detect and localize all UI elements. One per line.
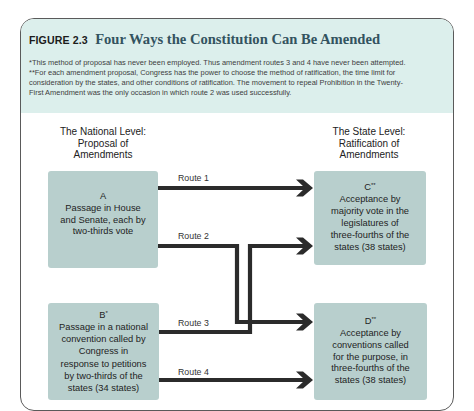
box-text-line: by two-thirds of the	[64, 370, 143, 382]
proposal-box-b: B* Passage in a national convention call…	[48, 303, 159, 400]
header-line: The National Level:	[38, 126, 168, 138]
ratification-box-d: D** Acceptance by conventions called for…	[314, 303, 427, 400]
state-level-header: The State Level: Ratification of Amendme…	[304, 126, 434, 161]
route-2-label: Route 2	[178, 231, 209, 241]
header-line: Proposal of	[38, 138, 168, 150]
route-2-line	[158, 246, 306, 322]
box-text-line: Acceptance by	[340, 194, 401, 206]
national-level-header: The National Level: Proposal of Amendmen…	[38, 126, 168, 161]
box-text-line: Passage in a national	[59, 321, 148, 333]
box-text-line: conventions called	[332, 340, 409, 352]
arrow-right-icon	[296, 314, 313, 331]
box-id: D**	[365, 316, 376, 328]
box-text-line: Acceptance by	[340, 328, 401, 340]
route-3-label: Route 3	[178, 318, 209, 328]
arrow-right-icon	[296, 238, 313, 255]
box-text-line: three-fourths of the	[331, 230, 410, 242]
box-text-line: states (34 states)	[68, 382, 139, 394]
box-text-line: response to petitions	[61, 358, 147, 370]
box-text-line: three-fourths of the	[331, 363, 410, 375]
arrow-right-icon	[296, 372, 313, 389]
box-text-line: states (38 states)	[334, 242, 405, 254]
box-text-line: Congress in	[79, 345, 129, 357]
box-text-line: for the purpose, in	[333, 352, 408, 364]
box-text-line: legislatures of	[341, 218, 398, 230]
header-line: Amendments	[304, 149, 434, 161]
route-4-label: Route 4	[178, 367, 209, 377]
box-id: A	[100, 191, 106, 203]
amendment-diagram: The National Level: Proposal of Amendmen…	[0, 0, 474, 411]
box-text-line: Passage in House	[65, 203, 140, 215]
ratification-box-c: C** Acceptance by majority vote in the l…	[314, 171, 426, 265]
box-text-line: and Senate, each by	[60, 215, 145, 227]
box-text-line: majority vote in the	[331, 206, 409, 218]
header-line: The State Level:	[304, 126, 434, 138]
box-text-line: two-thirds vote	[73, 226, 133, 238]
arrow-right-icon	[296, 180, 313, 197]
header-line: Ratification of	[304, 138, 434, 150]
box-id: B*	[99, 309, 108, 321]
proposal-box-a: A Passage in House and Senate, each by t…	[48, 171, 158, 268]
header-line: Amendments	[38, 149, 168, 161]
box-text-line: convention called by	[61, 333, 145, 345]
box-id: C**	[364, 182, 375, 194]
box-text-line: states (38 states)	[335, 375, 406, 387]
route-1-label: Route 1	[178, 173, 209, 183]
